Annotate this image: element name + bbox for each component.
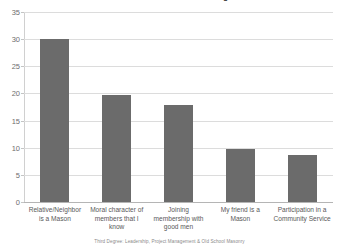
gridline [24, 93, 333, 94]
y-axis-tick: 10 [24, 148, 25, 149]
y-axis-tick-mark [21, 148, 24, 149]
bar [288, 155, 317, 202]
x-axis-labels: Relative/Neighbor is a MasonMoral charac… [24, 206, 333, 240]
y-axis-tick: 5 [24, 175, 25, 176]
x-axis-label: Participation in a Community Service [273, 206, 331, 223]
y-axis-tick: 20 [24, 93, 25, 94]
bar [226, 149, 255, 202]
y-axis-tick-label: 15 [12, 116, 20, 125]
x-axis-label: Relative/Neighbor is a Mason [26, 206, 84, 223]
y-axis-tick-mark [21, 93, 24, 94]
bar [164, 105, 193, 202]
x-axis-label: Moral character of members that I know [88, 206, 146, 232]
y-axis-tick-label: 10 [12, 143, 20, 152]
y-axis-tick-mark [21, 175, 24, 176]
bar [102, 95, 131, 202]
y-axis-line [24, 12, 25, 202]
y-axis-tick-mark [21, 12, 24, 13]
x-axis-line [24, 202, 333, 203]
gridline [24, 12, 333, 13]
y-axis-tick-mark [21, 121, 24, 122]
y-axis-tick-label: 25 [12, 62, 20, 71]
bar [40, 39, 69, 202]
plot-area: 05101520253035 [24, 12, 333, 202]
y-axis-tick: 25 [24, 66, 25, 67]
gridline [24, 39, 333, 40]
y-axis-tick-label: 35 [12, 8, 20, 17]
y-axis-tick: 30 [24, 39, 25, 40]
chart-title: Reasons for interest in becoming a Mason [24, 0, 334, 1]
gridline [24, 66, 333, 67]
source-note: Third Degree: Leadership, Project Manage… [0, 239, 339, 244]
y-axis-tick-label: 5 [16, 170, 20, 179]
bar-chart: Reasons for interest in becoming a Mason… [0, 0, 339, 250]
y-axis-tick-mark [21, 66, 24, 67]
y-axis-tick: 35 [24, 12, 25, 13]
y-axis-tick-label: 0 [16, 198, 20, 207]
x-axis-label: My friend is a Mason [211, 206, 269, 223]
x-axis-label: Joining membership with good men [150, 206, 208, 232]
y-axis-tick-label: 20 [12, 89, 20, 98]
y-axis-tick: 15 [24, 121, 25, 122]
y-axis-tick-mark [21, 39, 24, 40]
y-axis-tick-label: 30 [12, 35, 20, 44]
